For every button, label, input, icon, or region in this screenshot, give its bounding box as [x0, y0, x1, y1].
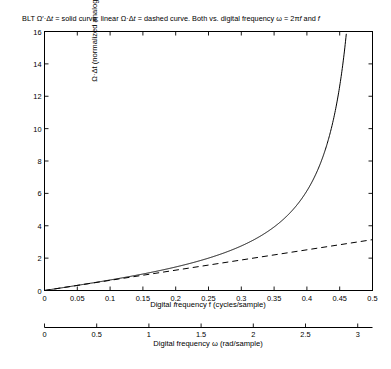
label-segment: requency f (cycles/sample) [176, 300, 266, 309]
secondary-x-axis [45, 324, 373, 328]
y-tick-label: 10 [33, 124, 41, 133]
y-tick-label: 6 [37, 189, 41, 198]
y-tick-label: 4 [37, 221, 41, 230]
y-axis-label: Ω·Δt (normalized analog radian frequency… [90, 0, 99, 110]
label-segment: Digital [150, 300, 173, 309]
x2-tick-label: 3 [356, 330, 360, 339]
figure-container: BLT Ω′·Δt = solid curve; linear Ω·Δt = d… [0, 0, 391, 369]
x2-tick-label: 0.5 [92, 330, 102, 339]
x2-tick-label: 0 [42, 330, 46, 339]
y-tick-label: 0 [37, 286, 41, 295]
y-tick-label: 2 [37, 254, 41, 263]
y-tick-label: 8 [37, 157, 41, 166]
x2-tick-label: 2.5 [300, 330, 310, 339]
y-tick-label: 14 [33, 59, 41, 68]
x2-tick-label: 2 [251, 330, 255, 339]
y-tick-label: 16 [33, 27, 41, 36]
plot-canvas [0, 0, 391, 369]
x-axis-label-f: Digital frequency f (cycles/sample) [44, 300, 372, 309]
y-tick-label: 12 [33, 92, 41, 101]
x2-tick-label: 1.5 [196, 330, 206, 339]
x-axis-label-omega: Digital frequency ω (rad/sample) [44, 339, 372, 348]
x2-tick-label: 1 [147, 330, 151, 339]
